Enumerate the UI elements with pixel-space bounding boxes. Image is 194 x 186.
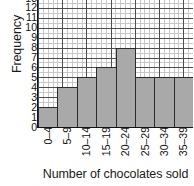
y-tick-label: 5 <box>20 72 37 83</box>
histogram-chart: Frequency 012345678910111213 0–45–910–14… <box>0 0 194 186</box>
y-axis-tick-labels: 012345678910111213 <box>20 0 37 186</box>
x-tick-slot: 5–9 <box>57 129 76 165</box>
x-tick-slot: 15–19 <box>96 129 115 165</box>
bar <box>96 67 116 128</box>
x-tick-label: 10–14 <box>80 127 92 167</box>
y-tick-label: 4 <box>20 82 37 93</box>
x-tick-label: 0–4 <box>42 127 54 167</box>
x-tick-slot: 0–4 <box>38 129 57 165</box>
bar <box>38 107 58 128</box>
x-tick-slot: 35–39 <box>174 129 193 165</box>
x-axis-title: Number of chocolates sold <box>38 167 193 182</box>
y-tick-label: 9 <box>20 32 37 43</box>
bar <box>154 77 174 128</box>
y-tick-label: 7 <box>20 52 37 63</box>
y-axis-line <box>37 0 38 128</box>
plot-area <box>38 0 193 128</box>
x-tick-slot: 10–14 <box>77 129 96 165</box>
x-axis-tick-labels: 0–45–910–1415–1920–2425–2930–3435–39 <box>38 129 193 165</box>
x-tick-slot: 30–34 <box>154 129 173 165</box>
x-tick-label: 25–29 <box>139 127 151 167</box>
x-tick-slot: 20–24 <box>116 129 135 165</box>
bar <box>174 77 193 128</box>
y-tick-label: 3 <box>20 92 37 103</box>
y-tick-label: 11 <box>20 12 37 23</box>
x-tick-label: 35–39 <box>177 127 189 167</box>
y-tick-label: 10 <box>20 22 37 33</box>
y-tick-label: 6 <box>20 62 37 73</box>
x-tick-label: 20–24 <box>119 127 131 167</box>
x-tick-label: 5–9 <box>61 127 73 167</box>
x-tick-slot: 25–29 <box>135 129 154 165</box>
y-tick-label: 13 <box>20 0 37 4</box>
bar <box>135 77 155 128</box>
y-tick-label: 2 <box>20 102 37 113</box>
bar <box>57 87 77 128</box>
y-tick-label: 12 <box>20 2 37 13</box>
x-tick-label: 15–19 <box>100 127 112 167</box>
y-tick-label: 1 <box>20 112 37 123</box>
bar <box>116 48 136 128</box>
x-tick-label: 30–34 <box>158 127 170 167</box>
y-tick-label: 0 <box>20 122 37 133</box>
y-tick-label: 8 <box>20 42 37 53</box>
bar-series <box>38 0 193 128</box>
bar <box>77 77 97 128</box>
